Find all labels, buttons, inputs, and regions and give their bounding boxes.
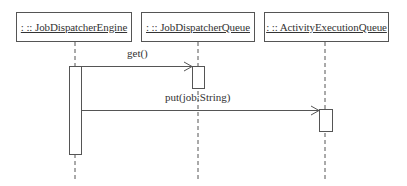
object-box-engine: : :: JobDispatcherEngine [16, 12, 132, 42]
message-label-put: put(job:String) [165, 91, 230, 103]
object-label-queue: : :: JobDispatcherQueue [146, 21, 250, 33]
object-box-queue: : :: JobDispatcherQueue [141, 12, 255, 42]
activation-engine [70, 67, 82, 155]
object-box-activity: : :: ActivityExecutionQueue [264, 12, 389, 42]
activation-queue [193, 67, 205, 89]
object-label-engine: : :: JobDispatcherEngine [21, 21, 127, 33]
object-label-activity: : :: ActivityExecutionQueue [266, 21, 387, 33]
message-label-get: get() [127, 47, 148, 59]
activation-activity [320, 110, 333, 132]
